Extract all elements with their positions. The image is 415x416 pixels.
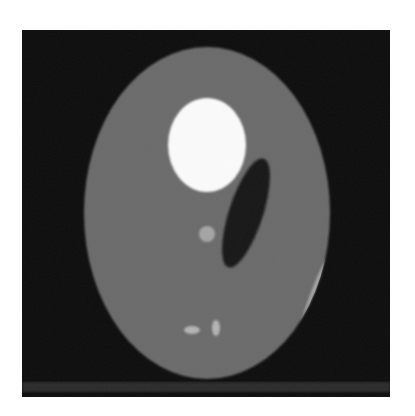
phantom-figure: [0, 0, 415, 416]
noise-overlay: [22, 30, 390, 397]
image-frame: [22, 30, 390, 397]
figure-caption: [22, 403, 390, 416]
phantom-image: [22, 30, 390, 397]
